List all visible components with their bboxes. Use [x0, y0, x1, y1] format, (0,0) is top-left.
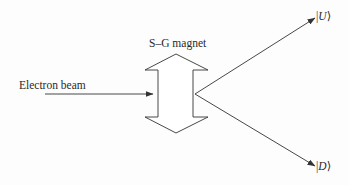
electron-beam-label: Electron beam — [19, 80, 86, 92]
diagram-graphics — [0, 0, 349, 185]
ket-down-label: |D⟩ — [316, 161, 331, 173]
sg-magnet-shape — [145, 54, 208, 133]
ket-down-symbol: D — [318, 160, 326, 172]
spin-down-beam-arrow — [195, 94, 315, 166]
ket-up-label: |U⟩ — [316, 11, 331, 23]
spin-up-beam-arrow — [195, 18, 315, 94]
ket-up-symbol: U — [318, 10, 326, 22]
sg-magnet-label: S–G magnet — [149, 38, 206, 50]
ket-up-angle: ⟩ — [327, 10, 332, 22]
ket-down-angle: ⟩ — [327, 160, 332, 172]
stern-gerlach-diagram: Electron beam S–G magnet |U⟩ |D⟩ — [0, 0, 349, 185]
